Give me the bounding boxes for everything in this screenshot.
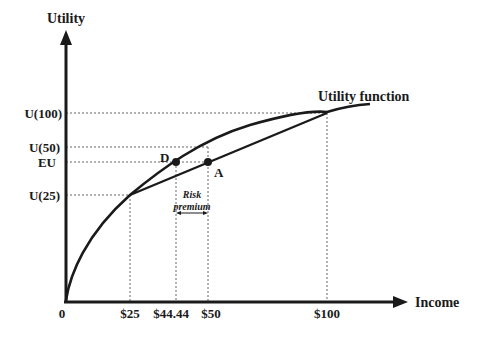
risk-premium-label-line2: premium: [172, 201, 210, 212]
curve-label: Utility function: [318, 89, 410, 104]
utility-diagram: Utility Income 0 U(100) U(50) EU U(25) $…: [0, 0, 483, 339]
x-tick-4444: $44.44: [153, 306, 189, 321]
y-tick-u100: U(100): [24, 106, 62, 121]
x-tick-25: $25: [120, 306, 140, 321]
y-tick-eu: EU: [38, 155, 57, 170]
x-tick-100: $100: [314, 306, 340, 321]
origin-label: 0: [59, 306, 66, 321]
point-a: [204, 158, 212, 166]
x-axis-arrow-icon: [393, 296, 408, 308]
point-d-label: D: [160, 150, 169, 165]
utility-curve: [66, 104, 370, 300]
axes: [60, 30, 408, 308]
point-d: [172, 158, 180, 166]
x-tick-50: $50: [201, 306, 221, 321]
x-axis-label: Income: [415, 295, 459, 310]
y-tick-u50: U(50): [29, 140, 60, 155]
y-axis-arrow-icon: [60, 30, 72, 45]
y-axis-label: Utility: [47, 11, 85, 26]
point-a-label: A: [214, 165, 224, 180]
risk-premium-label-line1: Risk: [182, 189, 201, 200]
y-tick-u25: U(25): [29, 188, 60, 203]
